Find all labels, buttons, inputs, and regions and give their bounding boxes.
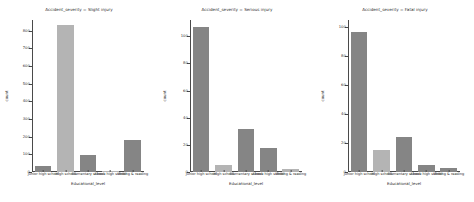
panel-title: Accident_severity = Fatal injury: [316, 7, 474, 13]
facet-panel-1: Accident_severity = Serious injurycount0…: [158, 0, 316, 202]
bar-slot: [438, 20, 460, 172]
x-tick-label: Writing & reading: [117, 172, 148, 176]
bar-slot: [370, 20, 392, 172]
y-tick-label: 800: [23, 29, 30, 33]
bar-slot: [99, 20, 121, 172]
bar-group: [32, 20, 144, 172]
x-axis-label: Educational_level: [190, 181, 302, 186]
x-tick-label: Junior high school: [344, 172, 375, 176]
bar: [351, 32, 368, 172]
y-tick-label: 500: [23, 82, 30, 86]
bar-slot: [77, 20, 99, 172]
bar: [260, 148, 277, 172]
y-tick-label: 20: [341, 141, 346, 145]
y-tick-label: 100: [23, 152, 30, 156]
x-axis-label: Educational_level: [32, 181, 144, 186]
bar: [124, 140, 141, 172]
facet-panel-0: Accident_severity = Slight injurycount01…: [0, 0, 158, 202]
x-tick-label: Writing & reading: [275, 172, 306, 176]
bar-slot: [190, 20, 212, 172]
y-axis-label: count: [320, 91, 325, 102]
facet-panel-2: Accident_severity = Fatal injurycount020…: [316, 0, 474, 202]
bar-slot: [348, 20, 370, 172]
panel-title: Accident_severity = Serious injury: [158, 7, 316, 13]
bar-slot: [235, 20, 257, 172]
bar-group: [190, 20, 302, 172]
plot-area: 020406080100: [190, 20, 302, 172]
bar-slot: [415, 20, 437, 172]
y-tick-label: 200: [23, 135, 30, 139]
y-axis-label: count: [162, 91, 167, 102]
y-axis-label: count: [4, 91, 9, 102]
bar: [57, 25, 74, 172]
y-tick-label: 80: [183, 61, 188, 65]
bar-slot: [257, 20, 279, 172]
y-tick-label: 100: [181, 34, 188, 38]
bar-slot: [393, 20, 415, 172]
bar: [238, 129, 255, 172]
bar-slot: [54, 20, 76, 172]
bar-slot: [122, 20, 144, 172]
panel-title: Accident_severity = Slight injury: [0, 7, 158, 13]
y-tick-label: 700: [23, 46, 30, 50]
y-tick-label: 60: [341, 83, 346, 87]
bar: [193, 27, 210, 172]
bar-slot: [32, 20, 54, 172]
y-tick-label: 600: [23, 64, 30, 68]
y-tick-label: 20: [183, 143, 188, 147]
y-tick-label: 300: [23, 117, 30, 121]
y-tick-label: 100: [339, 25, 346, 29]
y-tick-label: 60: [183, 89, 188, 93]
x-tick-label: Junior high school: [28, 172, 59, 176]
y-tick-label: 80: [341, 54, 346, 58]
y-tick-label: 40: [183, 116, 188, 120]
plot-area: 0100200300400500600700800: [32, 20, 144, 172]
bar-slot: [280, 20, 302, 172]
x-axis-label: Educational_level: [348, 181, 460, 186]
plot-area: 020406080100: [348, 20, 460, 172]
y-tick-label: 400: [23, 99, 30, 103]
x-tick-label: Junior high school: [186, 172, 217, 176]
bar-group: [348, 20, 460, 172]
x-tick-label: Writing & reading: [433, 172, 464, 176]
y-tick-label: 40: [341, 112, 346, 116]
bar-slot: [212, 20, 234, 172]
figure-faceted-bar-charts: Accident_severity = Slight injurycount01…: [0, 0, 474, 202]
bar: [396, 137, 413, 172]
